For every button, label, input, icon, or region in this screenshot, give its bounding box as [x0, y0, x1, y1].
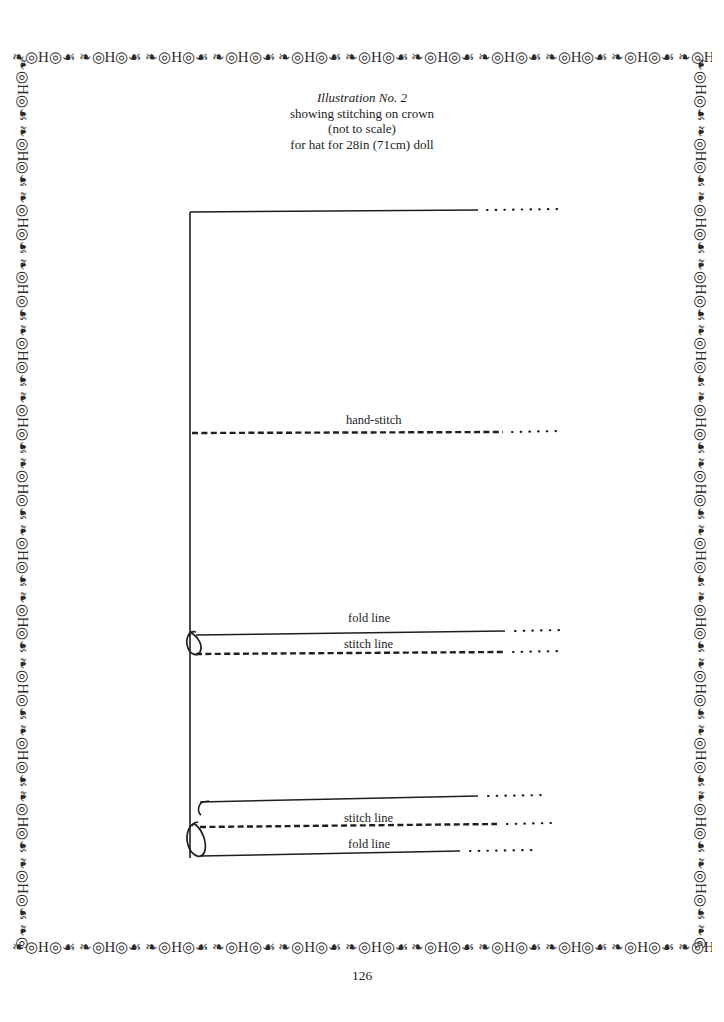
stitch-line-upper-dots: [513, 651, 562, 652]
label-stitch-line-lower: stitch line: [344, 811, 393, 826]
fold-line-upper: [196, 631, 505, 635]
stitching-diagram: hand-stitch fold line stitch line stitch…: [0, 0, 724, 1022]
label-fold-line-lower: fold line: [348, 837, 390, 852]
hand-stitch-dashed-line: [192, 432, 503, 433]
stitch-line-upper: [196, 652, 503, 654]
lower-band-top-dots: [488, 795, 545, 796]
fold-line-lower-dots: [470, 850, 536, 851]
lower-band-top-line: [200, 796, 478, 802]
label-fold-line-upper: fold line: [348, 611, 390, 626]
fold-line-upper-dots: [515, 630, 562, 631]
label-hand-stitch: hand-stitch: [346, 413, 402, 428]
crown-top-edge-dots: [487, 209, 560, 210]
crown-top-edge-line: [190, 210, 478, 212]
label-stitch-line-upper: stitch line: [344, 637, 393, 652]
stitch-line-lower-dots: [507, 823, 552, 824]
hook-bracket-lower: [199, 801, 209, 815]
diagram-svg: [0, 0, 724, 1022]
page-number: 126: [0, 968, 724, 984]
hand-stitch-dots: [512, 431, 560, 432]
fold-line-lower: [200, 851, 460, 856]
